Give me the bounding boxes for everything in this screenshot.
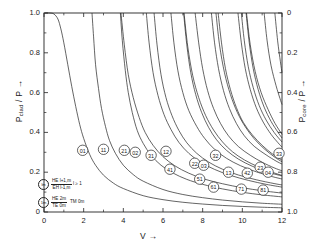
mode-curve: [275, 13, 282, 73]
y-tick-label-right: 0.8: [287, 167, 297, 176]
y-axis-label-right: Pcore / P →: [297, 66, 307, 136]
mode-curve: [264, 13, 282, 105]
mode-label-text: 22: [192, 161, 198, 167]
mode-label-text: 21: [121, 148, 127, 154]
mode-label-text: 61: [211, 184, 217, 190]
y-tick-label-right: 1.0: [287, 207, 297, 216]
mode-label-text: 11: [101, 147, 107, 153]
y-tick-label-left: 1.0: [16, 8, 40, 17]
mode-label-text: 31: [148, 153, 154, 159]
mode-label-text: 03: [201, 163, 207, 169]
y-tick-label-right: 0.4: [287, 88, 297, 97]
legend-formula-lm-num: HE l+1,m: [51, 178, 72, 185]
mode-label: 03: [198, 160, 208, 170]
legend-symbol-lm: lm: [38, 179, 49, 190]
figure-root: 01112102311241220351326113427123048133 P…: [0, 0, 319, 248]
mode-label-text: 32: [213, 153, 219, 159]
y-tick-label-left: 0: [16, 207, 40, 216]
mode-power-chart: 01112102311241220351326113427123048133: [0, 0, 319, 248]
legend-formula-lm-den: EH l-1,m: [51, 185, 72, 191]
mode-label: 81: [258, 185, 268, 195]
y-axis-label-left: Pclad / P →: [14, 66, 24, 136]
mode-label: 13: [223, 167, 233, 177]
mode-label-text: 13: [225, 170, 231, 176]
y-tick-label-right: 0.6: [287, 127, 297, 136]
mode-label-text: 12: [163, 149, 169, 155]
mode-label-text: 04: [265, 170, 271, 176]
mode-label: 61: [208, 182, 218, 192]
legend-entry-1m: 1m HE 2m TE 0m TM 0m: [38, 196, 84, 208]
legend-formula-1m-den: TE 0m: [51, 203, 67, 209]
mode-label: 04: [263, 167, 273, 177]
y-tick-label-right: 0.2: [287, 48, 297, 57]
mode-label-text: 41: [167, 167, 173, 173]
y-tick-label-left: 0.2: [16, 167, 40, 176]
x-tick-label: 6: [157, 216, 169, 225]
mode-curve: [195, 13, 282, 171]
legend-formula-lm: HE l+1,m EH l-1,m: [51, 178, 72, 190]
legend-tail-lm: l ≥ 1: [73, 181, 82, 186]
legend-symbol-1m: 1m: [38, 197, 49, 208]
mode-label: 41: [165, 164, 175, 174]
mode-curve: [238, 13, 282, 147]
mode-label-text: 42: [244, 170, 250, 176]
mode-label: 32: [210, 150, 220, 160]
x-tick-label: 8: [197, 216, 209, 225]
mode-label: 11: [98, 144, 108, 154]
x-tick-label: 10: [236, 216, 248, 225]
y-axis-label-right-text: Pcore / P: [297, 91, 307, 123]
mode-label-text: 33: [276, 151, 282, 157]
mode-label: 01: [77, 145, 87, 155]
y-tick-label-left: 0.8: [16, 48, 40, 57]
x-tick-label: 0: [38, 216, 50, 225]
mode-label-text: 01: [80, 148, 86, 154]
mode-label-text: 71: [238, 186, 244, 192]
mode-label: 71: [236, 184, 246, 194]
x-axis-label: V →: [140, 231, 157, 241]
mode-label-text: 51: [197, 176, 203, 182]
mode-label: 31: [146, 150, 156, 160]
legend-formula-1m: HE 2m TE 0m: [51, 196, 67, 208]
arrow-icon-right: →: [297, 79, 307, 88]
mode-label-text: 02: [132, 150, 138, 156]
mode-label: 42: [242, 168, 252, 178]
mode-label-text: 81: [260, 187, 266, 193]
legend-formula-1m-num: HE 2m: [51, 196, 67, 203]
mode-label: 33: [274, 148, 284, 158]
x-tick-label: 12: [276, 216, 288, 225]
mode-label: 12: [161, 146, 171, 156]
mode-label: 02: [130, 147, 140, 157]
curve-label-group: 01112102311241220351326113427123048133: [77, 144, 284, 195]
x-tick-label: 2: [78, 216, 90, 225]
y-tick-label-left: 0.6: [16, 88, 40, 97]
arrow-icon-x: →: [148, 231, 157, 241]
y-tick-label-right: 0: [287, 8, 291, 17]
x-axis-label-text: V: [140, 231, 146, 241]
mode-label: 51: [194, 174, 204, 184]
y-tick-label-left: 0.4: [16, 127, 40, 136]
mode-label: 21: [119, 145, 129, 155]
x-tick-label: 4: [117, 216, 129, 225]
legend-tail-1m: TM 0m: [70, 199, 84, 204]
legend-entry-lm: lm HE l+1,m EH l-1,m l ≥ 1: [38, 178, 82, 190]
mode-label-text: 23: [257, 165, 263, 171]
